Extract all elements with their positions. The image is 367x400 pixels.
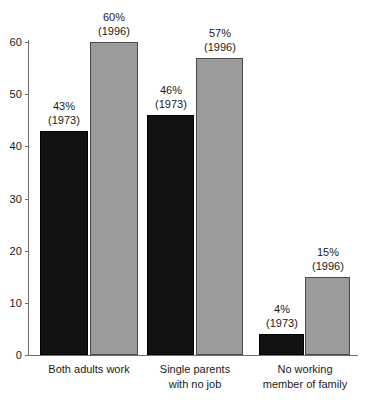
y-tick-label-40: 40 <box>0 141 22 152</box>
bar-both-adults-work-1973[interactable] <box>40 131 88 355</box>
y-tick-mark-60 <box>25 42 29 43</box>
bar-value-label-single-parents-no-job-1973: 46% (1973) <box>139 83 203 111</box>
y-tick-label-30: 30 <box>0 194 22 205</box>
y-tick-mark-0 <box>25 355 29 356</box>
category-line: No working <box>244 362 366 377</box>
bar-value-percent: 60% <box>82 10 146 24</box>
y-tick-mark-20 <box>25 251 29 252</box>
bar-value-label-single-parents-no-job-1996: 57% (1996) <box>188 26 252 54</box>
plot-area: 0 10 20 30 40 50 60 43% (1973) 60% (1996… <box>0 0 367 400</box>
bar-value-percent: 46% <box>139 83 203 97</box>
category-line: Both adults work <box>29 362 149 377</box>
bar-single-parents-no-job-1996[interactable] <box>196 58 243 355</box>
bar-value-year: (1973) <box>139 97 203 111</box>
bar-both-adults-work-1996[interactable] <box>90 42 138 355</box>
bar-value-percent: 43% <box>32 99 96 113</box>
category-line: Single parents <box>135 362 255 377</box>
x-axis-category-both-adults-work: Both adults work <box>29 362 149 377</box>
bar-value-year: (1996) <box>296 259 360 273</box>
y-tick-label-50: 50 <box>0 89 22 100</box>
x-axis-category-no-working-member: No working member of family <box>244 362 366 392</box>
bar-value-label-no-working-member-1996: 15% (1996) <box>296 245 360 273</box>
bar-single-parents-no-job-1973[interactable] <box>147 115 194 355</box>
category-line: with no job <box>135 377 255 392</box>
y-tick-mark-40 <box>25 146 29 147</box>
bar-value-label-both-adults-work-1973: 43% (1973) <box>32 99 96 127</box>
bar-no-working-member-1973[interactable] <box>259 334 304 355</box>
bar-no-working-member-1996[interactable] <box>305 277 350 355</box>
bar-chart: 0 10 20 30 40 50 60 43% (1973) 60% (1996… <box>0 0 367 400</box>
bar-value-percent: 15% <box>296 245 360 259</box>
bar-value-percent: 57% <box>188 26 252 40</box>
y-tick-label-10: 10 <box>0 298 22 309</box>
y-tick-mark-30 <box>25 199 29 200</box>
x-axis-category-single-parents-no-job: Single parents with no job <box>135 362 255 392</box>
y-tick-label-0: 0 <box>0 350 22 361</box>
y-axis-line <box>28 40 29 356</box>
bar-value-label-both-adults-work-1996: 60% (1996) <box>82 10 146 38</box>
bar-value-year: (1973) <box>32 113 96 127</box>
category-line: member of family <box>244 377 366 392</box>
y-tick-label-60: 60 <box>0 37 22 48</box>
y-tick-label-20: 20 <box>0 246 22 257</box>
x-axis-line <box>28 355 358 356</box>
y-tick-mark-10 <box>25 303 29 304</box>
bar-value-year: (1996) <box>188 40 252 54</box>
y-tick-mark-50 <box>25 94 29 95</box>
bar-value-year: (1996) <box>82 24 146 38</box>
